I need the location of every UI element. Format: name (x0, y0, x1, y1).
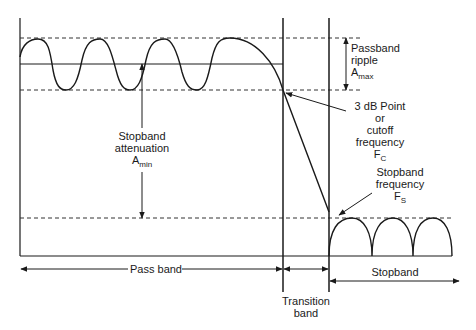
filter-response-diagram (0, 0, 476, 330)
passband-ripple-label: Passband ripple Amax (351, 42, 400, 83)
stopband-frequency-label: Stopband frequency FS (368, 166, 432, 207)
transition-band-label: Transition band (276, 295, 336, 319)
cutoff-frequency-label: 3 dB Point or cutoff frequency FC (345, 100, 415, 165)
stopband-attenuation-label: Stopband attenuation Amin (108, 130, 176, 171)
pass-band-label: Pass band (130, 263, 180, 275)
cutoff-pointer-arrow (286, 93, 346, 111)
stopband-label: Stopband (365, 266, 425, 278)
stopband-lobes (329, 218, 452, 256)
